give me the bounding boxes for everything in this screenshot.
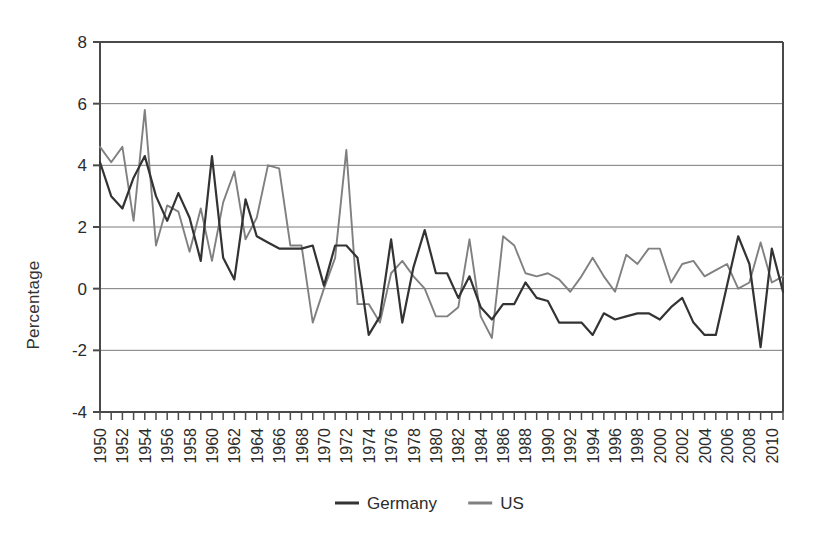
x-axis-tick-label: 2004 xyxy=(697,428,714,464)
x-axis-tick-label: 2010 xyxy=(764,428,781,464)
gridlines-group xyxy=(100,42,783,350)
x-axis-tick-label: 1978 xyxy=(406,428,423,464)
x-axis-tick-label: 1984 xyxy=(473,428,490,464)
data-series-group xyxy=(100,110,783,347)
x-axis-tick-label: 1994 xyxy=(585,428,602,464)
x-axis-tick-label: 1990 xyxy=(540,428,557,464)
data-series-line-us xyxy=(100,110,783,338)
x-axis-tick-label: 1970 xyxy=(316,428,333,464)
x-axis-tick-label: 1976 xyxy=(383,428,400,464)
legend-label-germany: Germany xyxy=(367,494,437,513)
x-axis-tick-label: 2002 xyxy=(674,428,691,464)
x-axis-tick-label: 2008 xyxy=(741,428,758,464)
x-axis-tick-labels-group: 1950195219541956195819601962196419661968… xyxy=(92,428,781,464)
x-axis-tick-label: 1968 xyxy=(294,428,311,464)
chart-plot-area: -4-202468 195019521954195619581960196219… xyxy=(0,0,816,536)
x-axis-tick-label: 2000 xyxy=(652,428,669,464)
x-axis-tick-label: 1992 xyxy=(562,428,579,464)
data-series-line-germany xyxy=(100,156,783,347)
legend-label-us: US xyxy=(500,494,524,513)
x-axis-ticks-group xyxy=(100,412,783,420)
y-axis-tick-label: 4 xyxy=(78,156,87,175)
x-axis-tick-label: 1980 xyxy=(428,428,445,464)
x-axis-tick-label: 1988 xyxy=(517,428,534,464)
x-axis-tick-label: 1962 xyxy=(226,428,243,464)
x-axis-tick-label: 1964 xyxy=(249,428,266,464)
y-axis-ticks-group: -4-202468 xyxy=(72,33,100,422)
x-axis-tick-label: 1996 xyxy=(607,428,624,464)
chart-figure: Percentage -4-202468 1950195219541956195… xyxy=(0,0,816,536)
x-axis-tick-label: 1952 xyxy=(114,428,131,464)
y-axis-tick-label: 8 xyxy=(78,33,87,52)
y-axis-tick-label: 2 xyxy=(78,218,87,237)
x-axis-tick-label: 1956 xyxy=(159,428,176,464)
x-axis-tick-label: 1954 xyxy=(137,428,154,464)
x-axis-tick-label: 1950 xyxy=(92,428,109,464)
x-axis-tick-label: 1998 xyxy=(629,428,646,464)
y-axis-tick-label: -2 xyxy=(72,341,87,360)
x-axis-tick-label: 1982 xyxy=(450,428,467,464)
y-axis-tick-label: -4 xyxy=(72,403,87,422)
y-axis-tick-label: 6 xyxy=(78,95,87,114)
x-axis-tick-label: 1960 xyxy=(204,428,221,464)
x-axis-tick-label: 1986 xyxy=(495,428,512,464)
x-axis-tick-label: 1972 xyxy=(338,428,355,464)
y-axis-tick-label: 0 xyxy=(78,280,87,299)
x-axis-tick-label: 1958 xyxy=(182,428,199,464)
x-axis-tick-label: 2006 xyxy=(719,428,736,464)
chart-legend: GermanyUS xyxy=(335,494,524,513)
x-axis-tick-label: 1974 xyxy=(361,428,378,464)
x-axis-tick-label: 1966 xyxy=(271,428,288,464)
